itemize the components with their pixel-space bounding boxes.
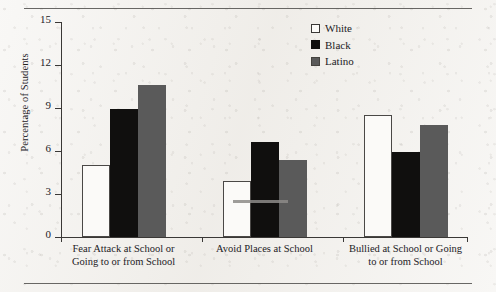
bar-white-group-2 — [223, 181, 251, 237]
latino-swatch — [311, 57, 320, 66]
category-label-line: Fear Attack at School or — [49, 243, 199, 256]
legend-label: Black — [325, 37, 351, 54]
x-tick-0 — [61, 237, 62, 242]
x-axis-line — [61, 237, 467, 238]
legend-item-white: White — [311, 20, 354, 37]
x-tick-3 — [467, 237, 468, 242]
bar-black-group-1 — [110, 109, 138, 237]
black-swatch — [311, 40, 320, 49]
bar-black-group-3 — [392, 152, 420, 237]
legend-item-black: Black — [311, 37, 354, 54]
x-tick-1 — [202, 237, 203, 242]
legend-label: Latino — [325, 53, 354, 70]
bar-black-group-2 — [251, 142, 279, 237]
scan-artifact-streak — [233, 200, 288, 203]
bar-white-group-1 — [82, 165, 110, 237]
legend-label: White — [325, 20, 352, 37]
x-tick-2 — [343, 237, 344, 242]
category-label-line: Bullied at School or Going — [331, 243, 481, 256]
category-label-line: to or from School — [331, 256, 481, 269]
category-label-2: Avoid Places at School — [190, 243, 340, 256]
legend-item-latino: Latino — [311, 53, 354, 70]
category-label-line: Avoid Places at School — [190, 243, 340, 256]
bar-white-group-3 — [364, 115, 392, 237]
category-label-line: Going to or from School — [49, 256, 199, 269]
legend: WhiteBlackLatino — [311, 20, 354, 70]
bar-latino-group-3 — [420, 125, 448, 237]
bar-latino-group-1 — [138, 85, 166, 237]
category-label-3: Bullied at School or Goingto or from Sch… — [331, 243, 481, 268]
bar-chart: 03691215 Percentage of Students Fear Att… — [0, 0, 496, 292]
category-label-1: Fear Attack at School orGoing to or from… — [49, 243, 199, 268]
bar-latino-group-2 — [279, 160, 307, 237]
white-swatch — [311, 24, 320, 33]
